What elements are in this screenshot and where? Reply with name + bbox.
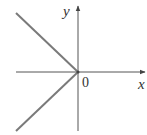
lower-left-ray	[16, 72, 78, 131]
y-axis-label: y	[63, 4, 70, 19]
origin-point	[77, 71, 80, 74]
upper-left-ray	[16, 13, 78, 72]
origin-label: 0	[82, 76, 89, 90]
coordinate-figure	[0, 0, 147, 135]
x-axis-label: x	[138, 77, 145, 92]
